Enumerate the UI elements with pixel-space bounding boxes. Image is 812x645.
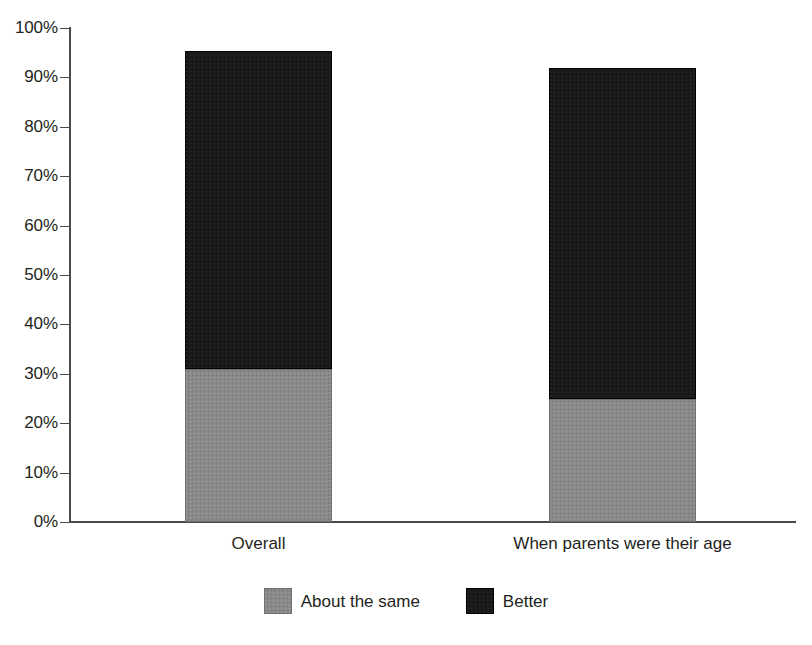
bar-segment-better[interactable] (185, 51, 332, 369)
y-axis-tick (60, 176, 70, 177)
y-axis-tick-label: 80% (0, 118, 58, 136)
y-axis-tick-label: 50% (0, 266, 58, 284)
y-axis-tick-label-text: 30% (6, 365, 58, 382)
stacked-bar-chart: 0%10%20%30%40%50%60%70%80%90%100% Overal… (0, 0, 812, 645)
legend-item-about-the-same[interactable]: About the same (264, 588, 420, 614)
x-axis-label-overall: Overall (59, 534, 459, 554)
y-axis-tick (60, 77, 70, 78)
legend-label-about-the-same: About the same (301, 592, 420, 611)
legend-swatch-icon-about-the-same (264, 588, 292, 614)
y-axis-tick (60, 275, 70, 276)
y-axis-tick (60, 226, 70, 227)
y-axis-tick-label: 20% (0, 414, 58, 432)
bar-segment-about-the-same[interactable] (185, 369, 332, 522)
bar-segment-better[interactable] (549, 68, 696, 399)
y-axis-tick-label: 10% (0, 464, 58, 482)
y-axis-tick-label-text: 60% (6, 217, 58, 234)
y-axis-tick-label: 90% (0, 68, 58, 86)
y-axis-tick (60, 423, 70, 424)
bar-group (185, 28, 332, 522)
y-axis-tick (60, 522, 70, 523)
legend-swatch-icon-better (466, 588, 494, 614)
y-axis-tick-label: 60% (0, 217, 58, 235)
plot-area (70, 28, 795, 522)
y-axis-tick (60, 127, 70, 128)
y-axis-tick-label: 70% (0, 167, 58, 185)
legend-item-better[interactable]: Better (466, 588, 548, 614)
y-axis-tick-label-text: 100% (6, 19, 58, 36)
y-axis-tick (60, 324, 70, 325)
y-axis-tick-label: 100% (0, 19, 58, 37)
y-axis-tick-label-text: 40% (6, 315, 58, 332)
bar-group (549, 28, 696, 522)
y-axis-tick-label-text: 20% (6, 414, 58, 431)
y-axis-tick-label: 40% (0, 315, 58, 333)
y-axis-tick-label-text: 50% (6, 266, 58, 283)
y-axis-tick-label: 30% (0, 365, 58, 383)
y-axis-tick-label-text: 80% (6, 118, 58, 135)
y-axis-tick-label-text: 10% (6, 464, 58, 481)
y-axis-tick (60, 374, 70, 375)
y-axis-tick-label-text: 70% (6, 167, 58, 184)
bar-segment-about-the-same[interactable] (549, 399, 696, 522)
y-axis-tick-label-text: 90% (6, 68, 58, 85)
y-axis-tick-label: 0% (0, 513, 58, 531)
x-axis-label-when-parents-were-their-age: When parents were their age (423, 534, 812, 554)
chart-legend: About the same Better (0, 588, 812, 614)
legend-label-better: Better (503, 592, 548, 611)
y-axis-tick (60, 28, 70, 29)
y-axis-tick (60, 473, 70, 474)
y-axis-tick-label-text: 0% (6, 513, 58, 530)
